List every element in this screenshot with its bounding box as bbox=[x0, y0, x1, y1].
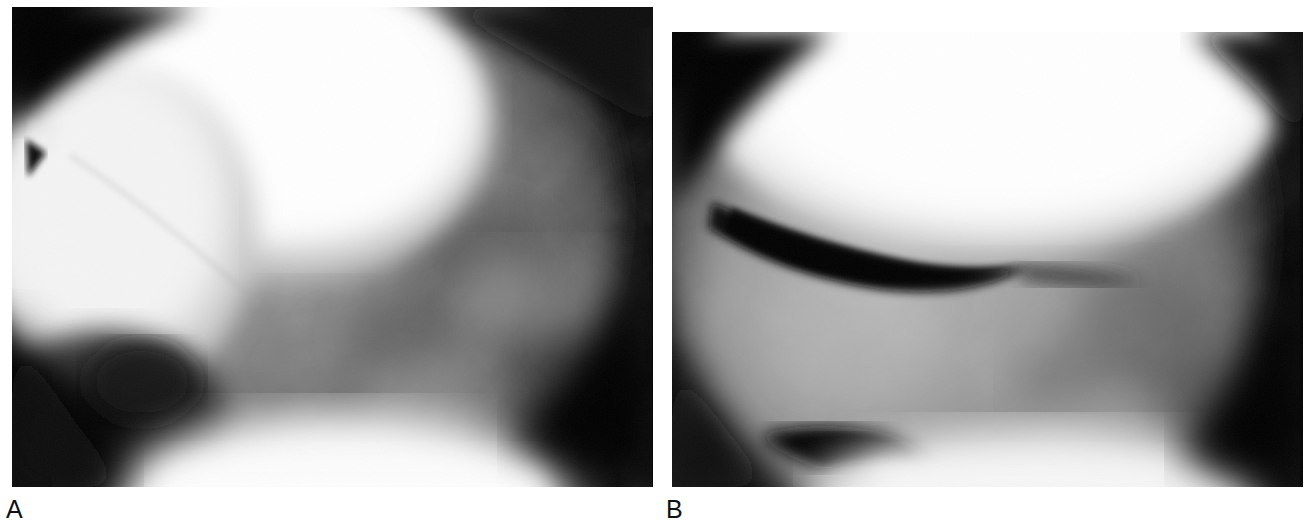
panel-caption-a: A bbox=[6, 497, 23, 522]
radiograph-image-b bbox=[672, 32, 1303, 487]
panel-a-film-grain bbox=[12, 7, 653, 487]
panel-caption-b: B bbox=[666, 497, 683, 522]
radiographic-figure: A B bbox=[0, 0, 1313, 530]
panel-b-film-grain bbox=[672, 32, 1303, 487]
radiograph-panel-a[interactable] bbox=[12, 7, 653, 487]
radiograph-image-a bbox=[12, 7, 653, 487]
radiograph-panel-b[interactable] bbox=[672, 32, 1303, 487]
